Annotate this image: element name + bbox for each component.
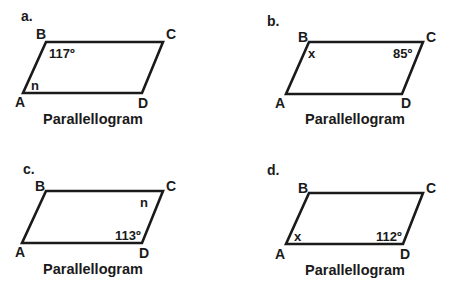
angle-label-b: x (308, 46, 316, 61)
panel-label-c: c. (23, 161, 35, 177)
caption-a: Parallellogram (43, 111, 143, 127)
vertex-label-c: C (426, 29, 436, 45)
caption-b: Parallellogram (305, 111, 405, 127)
angle-label-c: 85º (393, 46, 412, 61)
vertex-label-a: A (15, 94, 25, 110)
vertex-label-d: D (400, 246, 410, 262)
parallelogram-worksheet: a. B C A D 117º n Parallellogram b. B C … (0, 0, 451, 290)
caption-d: Parallellogram (305, 262, 405, 278)
vertex-label-b: B (35, 178, 45, 194)
vertex-label-d: D (138, 95, 148, 111)
caption-c: Parallellogram (43, 261, 143, 277)
vertex-label-c: C (166, 178, 176, 194)
angle-label-a: x (294, 229, 302, 244)
figure-b: b. B C A D x 85º Parallellogram (267, 13, 436, 127)
vertex-label-c: C (426, 180, 436, 196)
parallelogram-a (23, 42, 163, 93)
figure-c: c. B C A D n 113º Parallellogram (15, 161, 176, 277)
vertex-label-a: A (275, 95, 285, 111)
vertex-label-d: D (401, 95, 411, 111)
vertex-label-a: A (275, 246, 285, 262)
panel-label-a: a. (21, 8, 33, 24)
panel-label-b: b. (267, 13, 279, 29)
angle-label-a: n (31, 78, 39, 93)
parallelogram-d (286, 193, 423, 244)
angle-label-c: n (140, 195, 148, 210)
figure-a: a. B C A D 117º n Parallellogram (15, 8, 176, 127)
angle-label-d: 112º (376, 229, 402, 244)
angle-label-b: 117º (49, 46, 75, 61)
panel-label-d: d. (267, 162, 279, 178)
vertex-label-b: B (298, 180, 308, 196)
vertex-label-a: A (15, 244, 25, 260)
angle-label-d: 113º (115, 228, 141, 243)
vertex-label-b: B (298, 29, 308, 45)
vertex-label-d: D (139, 245, 149, 261)
vertex-label-c: C (166, 26, 176, 42)
vertex-label-b: B (36, 26, 46, 42)
figure-d: d. B C A D x 112º Parallellogram (267, 162, 436, 278)
